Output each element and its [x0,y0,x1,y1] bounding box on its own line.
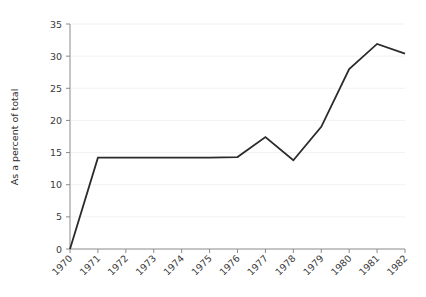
y-tick-label: 10 [50,179,62,190]
y-tick-label: 35 [50,19,62,30]
y-axis-label: As a percent of total [9,89,20,186]
chart-figure: 05101520253035 1970197119721973197419751… [0,0,426,297]
y-tick-label: 5 [56,211,62,222]
y-tick-label: 30 [50,51,62,62]
y-tick-label: 0 [56,244,62,255]
y-tick-label: 20 [50,115,62,126]
chart-background [0,0,426,297]
y-tick-label: 15 [50,147,62,158]
y-tick-label: 25 [50,83,62,94]
line-chart: 05101520253035 1970197119721973197419751… [0,0,426,297]
